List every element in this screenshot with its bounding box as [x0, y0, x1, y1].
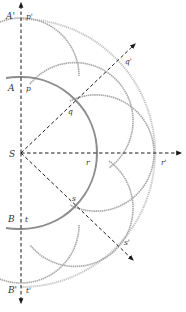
label-t: t: [25, 215, 29, 224]
huygens-diagram: A' p' A p q q' S r r' s s' B t B' t': [0, 0, 186, 312]
primary-wavefront-left-A: [6, 77, 21, 78]
wavelet-q: [30, 63, 133, 168]
wavelet-B: [0, 225, 79, 283]
label-r-prime: r': [161, 158, 167, 167]
label-t-prime: t': [26, 286, 31, 295]
label-A: A: [7, 83, 15, 93]
label-S: S: [9, 149, 15, 159]
label-A-prime: A': [5, 11, 15, 21]
label-B: B: [7, 214, 15, 224]
label-p-prime: p': [26, 12, 33, 21]
label-p: p: [26, 84, 31, 93]
label-q: q: [68, 107, 73, 116]
wavelet-s: [30, 161, 133, 266]
primary-wavefront-left-B: [6, 228, 21, 229]
label-s: s: [72, 194, 76, 203]
label-r: r: [86, 158, 90, 167]
ray-s: [21, 153, 133, 260]
label-q-prime: q': [125, 57, 132, 66]
label-B-prime: B': [7, 285, 17, 295]
label-s-prime: s': [124, 238, 130, 247]
